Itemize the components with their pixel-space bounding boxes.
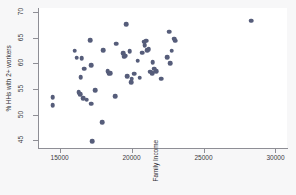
- data-point: [130, 76, 135, 81]
- y-tick-mark: [33, 38, 38, 39]
- x-tick-label: 30000: [266, 154, 284, 161]
- x-axis-title: Family Income: [140, 163, 170, 170]
- y-tick-label: 70: [17, 1, 24, 23]
- data-point: [128, 49, 133, 54]
- data-point: [82, 66, 87, 71]
- x-tick-label: 15000: [51, 154, 69, 161]
- data-point: [168, 61, 173, 66]
- data-point: [80, 56, 85, 61]
- data-point: [154, 69, 159, 74]
- data-point: [89, 63, 94, 68]
- data-point: [113, 94, 118, 99]
- x-tick-label: 25000: [194, 154, 212, 161]
- data-point: [79, 75, 84, 80]
- x-tick-mark: [275, 149, 276, 153]
- data-point: [74, 55, 79, 60]
- data-point: [159, 76, 164, 81]
- data-point: [140, 50, 145, 55]
- data-point: [93, 88, 98, 93]
- data-point: [72, 48, 77, 53]
- y-tick-mark: [33, 140, 38, 141]
- x-axis-line: [38, 148, 288, 149]
- data-point: [114, 42, 119, 47]
- x-tick-mark: [204, 149, 205, 153]
- data-point: [89, 102, 94, 107]
- y-tick-label: 60: [17, 52, 24, 74]
- x-tick-mark: [132, 149, 133, 153]
- y-tick-label: 55: [17, 78, 24, 100]
- data-point: [51, 103, 56, 108]
- data-point: [100, 120, 105, 125]
- y-tick-mark: [33, 63, 38, 64]
- data-point: [167, 29, 172, 34]
- data-point: [90, 139, 95, 144]
- data-point: [146, 47, 151, 52]
- y-tick-label: 50: [17, 103, 24, 125]
- data-point: [135, 59, 140, 64]
- data-point: [101, 48, 106, 53]
- data-point: [124, 22, 129, 27]
- data-point: [173, 39, 178, 44]
- y-axis-title: % HHs with 2+ workers: [3, 8, 13, 148]
- data-point: [132, 71, 137, 76]
- data-point: [137, 75, 142, 80]
- data-point: [165, 55, 170, 60]
- data-point: [84, 97, 89, 102]
- x-tick-label: 20000: [123, 154, 141, 161]
- y-tick-label: 45: [17, 129, 24, 151]
- y-axis-line: [38, 8, 39, 149]
- data-point: [50, 95, 55, 100]
- data-point: [151, 60, 156, 65]
- data-point: [123, 53, 128, 58]
- y-tick-mark: [33, 115, 38, 116]
- scatter-plot-figure: 455055606570 15000200002500030000 % HHs …: [0, 0, 296, 195]
- data-point: [249, 19, 254, 24]
- data-point: [169, 48, 174, 53]
- y-axis-title-text: % HHs with 2+ workers: [5, 45, 12, 111]
- y-tick-label: 65: [17, 26, 24, 48]
- data-point: [88, 38, 93, 43]
- x-axis-title-text: Family Income: [152, 152, 159, 182]
- y-tick-mark: [33, 89, 38, 90]
- data-point: [144, 39, 149, 44]
- data-point: [108, 71, 113, 76]
- y-tick-mark: [33, 12, 38, 13]
- x-tick-mark: [60, 149, 61, 153]
